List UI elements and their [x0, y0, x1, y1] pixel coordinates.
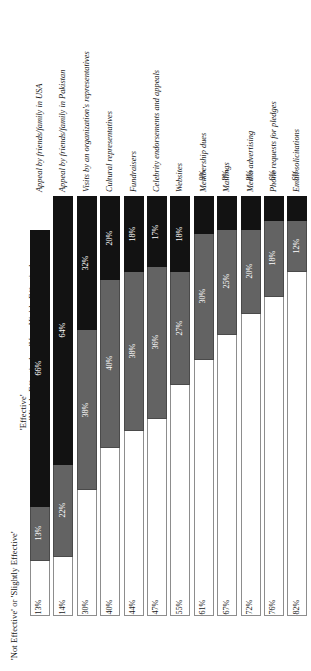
- segment-not-effective-value: 67%: [223, 599, 231, 614]
- bar-column[interactable]: 17%36%47%: [147, 196, 167, 616]
- segment-not-effective-value: 82%: [293, 599, 301, 614]
- category-label-wrap: Websites: [170, 0, 190, 192]
- segment-effective[interactable]: 38%: [124, 272, 144, 432]
- bar-column[interactable]: 64%22%14%: [53, 196, 73, 616]
- category-label: Email solicitations: [292, 129, 301, 192]
- stacked-bar-chart: 'Not Effective' or 'Slightly Effective' …: [0, 0, 311, 671]
- segment-highly-effective[interactable]: 20%: [100, 196, 120, 280]
- category-label: Phone requests for pledges: [269, 101, 278, 192]
- category-label: Membership dues: [199, 133, 208, 192]
- segment-highly-effective[interactable]: 17%: [147, 196, 167, 267]
- segment-not-effective[interactable]: 13%: [30, 561, 50, 616]
- segment-not-effective-value: 44%: [129, 599, 137, 614]
- category-label-wrap: Email solicitations: [287, 0, 307, 192]
- category-label: Websites: [175, 163, 184, 192]
- plot-area: 66%13%13%64%22%14%32%38%30%20%40%40%18%3…: [30, 196, 311, 616]
- segment-highly-effective-value: 66%: [36, 361, 44, 376]
- segment-effective[interactable]: 30%: [194, 234, 214, 360]
- segment-not-effective-value: 14%: [59, 599, 67, 614]
- segment-effective-value: 25%: [223, 274, 231, 289]
- segment-highly-effective[interactable]: 6%: [264, 196, 284, 221]
- category-label: Fundraisers: [129, 151, 138, 192]
- segment-not-effective-value: 61%: [200, 599, 208, 614]
- segment-effective[interactable]: 22%: [53, 465, 73, 557]
- segment-highly-effective[interactable]: 32%: [77, 196, 97, 330]
- segment-not-effective-value: 13%: [36, 599, 44, 614]
- segment-highly-effective-value: 18%: [176, 226, 184, 241]
- segment-not-effective[interactable]: 61%: [194, 360, 214, 616]
- segment-highly-effective-value: 20%: [106, 230, 114, 245]
- segment-effective[interactable]: 40%: [100, 280, 120, 448]
- segment-effective[interactable]: 27%: [170, 272, 190, 385]
- category-label-wrap: Membership dues: [194, 0, 214, 192]
- segment-effective-value: 40%: [106, 356, 114, 371]
- category-label: Appeal by friends/family in Pakistan: [58, 70, 67, 192]
- bar-column[interactable]: 32%38%30%: [77, 196, 97, 616]
- segment-not-effective[interactable]: 30%: [77, 490, 97, 616]
- segment-not-effective-value: 40%: [106, 599, 114, 614]
- bar-column[interactable]: 8%20%72%: [241, 196, 261, 616]
- legend-label-not-effective: 'Not Effective' or 'Slightly Effective': [9, 531, 19, 660]
- category-label-wrap: Cultural representatives: [100, 0, 120, 192]
- bar-column[interactable]: 66%13%13%: [30, 196, 50, 616]
- segment-not-effective[interactable]: 67%: [217, 335, 237, 616]
- segment-highly-effective[interactable]: 8%: [217, 196, 237, 230]
- category-label: Appeal by friends/family in USA: [35, 84, 44, 192]
- segment-highly-effective[interactable]: 18%: [170, 196, 190, 272]
- segment-not-effective[interactable]: 44%: [124, 431, 144, 616]
- bar-column[interactable]: 9%30%61%: [194, 196, 214, 616]
- category-label-wrap: Celebrity endorsements and appeals: [147, 0, 167, 192]
- segment-effective[interactable]: 18%: [264, 221, 284, 297]
- segment-not-effective[interactable]: 82%: [287, 272, 307, 616]
- segment-highly-effective[interactable]: 8%: [241, 196, 261, 230]
- segment-not-effective-value: 76%: [270, 599, 278, 614]
- category-label-wrap: Phone requests for pledges: [264, 0, 284, 192]
- category-label-wrap: Visits by an organization's representati…: [77, 0, 97, 192]
- segment-effective-value: 27%: [176, 320, 184, 335]
- segment-effective-value: 13%: [36, 526, 44, 541]
- segment-highly-effective-value: 17%: [153, 224, 161, 239]
- category-label-wrap: Appeal by friends/family in Pakistan: [53, 0, 73, 192]
- segment-highly-effective[interactable]: 9%: [194, 196, 214, 234]
- segment-effective-value: 38%: [129, 343, 137, 358]
- column-spacer: [30, 196, 50, 230]
- segment-highly-effective[interactable]: 6%: [287, 196, 307, 221]
- segment-not-effective[interactable]: 47%: [147, 419, 167, 616]
- segment-not-effective[interactable]: 40%: [100, 448, 120, 616]
- segment-effective-value: 18%: [270, 251, 278, 266]
- segment-effective[interactable]: 36%: [147, 267, 167, 418]
- segment-effective-value: 36%: [153, 335, 161, 350]
- segment-highly-effective[interactable]: 66%: [30, 230, 50, 507]
- segment-highly-effective-value: 32%: [83, 256, 91, 271]
- segment-not-effective[interactable]: 76%: [264, 297, 284, 616]
- segment-not-effective[interactable]: 55%: [170, 385, 190, 616]
- segment-effective[interactable]: 38%: [77, 330, 97, 490]
- bar-column[interactable]: 18%27%55%: [170, 196, 190, 616]
- segment-not-effective[interactable]: 14%: [53, 557, 73, 616]
- category-label-wrap: Media advertising: [241, 0, 261, 192]
- bar-column[interactable]: 8%25%67%: [217, 196, 237, 616]
- segment-effective-value: 20%: [246, 264, 254, 279]
- segment-not-effective-value: 47%: [153, 599, 161, 614]
- segment-effective[interactable]: 12%: [287, 221, 307, 271]
- segment-not-effective[interactable]: 72%: [241, 314, 261, 616]
- bar-column[interactable]: 20%40%40%: [100, 196, 120, 616]
- segment-highly-effective[interactable]: 64%: [53, 196, 73, 465]
- category-label: Cultural representatives: [105, 111, 114, 192]
- segment-effective[interactable]: 25%: [217, 230, 237, 335]
- segment-not-effective-value: 72%: [246, 599, 254, 614]
- category-label: Visits by an organization's representati…: [82, 51, 91, 192]
- bar-column[interactable]: 18%38%44%: [124, 196, 144, 616]
- category-label: Mailings: [222, 162, 231, 192]
- category-label-wrap: Fundraisers: [124, 0, 144, 192]
- segment-highly-effective-value: 64%: [59, 323, 67, 338]
- segment-highly-effective-value: 18%: [129, 226, 137, 241]
- segment-effective[interactable]: 20%: [241, 230, 261, 314]
- segment-effective[interactable]: 13%: [30, 507, 50, 562]
- category-label-wrap: Mailings: [217, 0, 237, 192]
- bar-column[interactable]: 6%18%76%: [264, 196, 284, 616]
- bar-column[interactable]: 6%12%82%: [287, 196, 307, 616]
- segment-effective-value: 22%: [59, 503, 67, 518]
- segment-highly-effective[interactable]: 18%: [124, 196, 144, 272]
- segment-not-effective-value: 55%: [176, 599, 184, 614]
